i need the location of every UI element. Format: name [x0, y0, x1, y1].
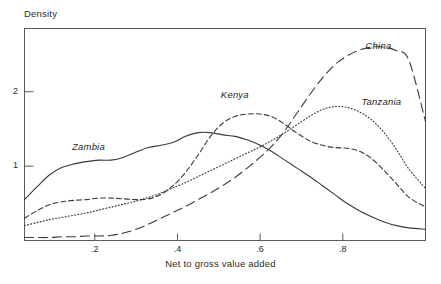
plot-frame	[25, 29, 426, 241]
density-chart-figure: Density 2 1 .2 .4 .6 .8 Zambia Kenya Tan…	[0, 0, 441, 284]
curve-label-tanzania: Tanzania	[361, 96, 401, 107]
x-tick-label-02: .2	[83, 244, 107, 254]
x-tick-label-08: .8	[331, 244, 355, 254]
x-tick-label-04: .4	[165, 244, 189, 254]
curve-label-china: China	[366, 40, 392, 51]
axis-ticks	[25, 92, 343, 241]
curve-label-zambia: Zambia	[72, 141, 105, 152]
x-tick-label-06: .6	[248, 244, 272, 254]
curve-label-kenya: Kenya	[221, 89, 249, 100]
y-axis-title: Density	[24, 8, 57, 19]
x-axis-title: Net to gross value added	[0, 258, 441, 269]
curve-tanzania	[25, 106, 426, 225]
y-tick-label-1: 1	[4, 160, 18, 170]
y-tick-label-2: 2	[4, 86, 18, 96]
curve-kenya	[25, 114, 426, 218]
